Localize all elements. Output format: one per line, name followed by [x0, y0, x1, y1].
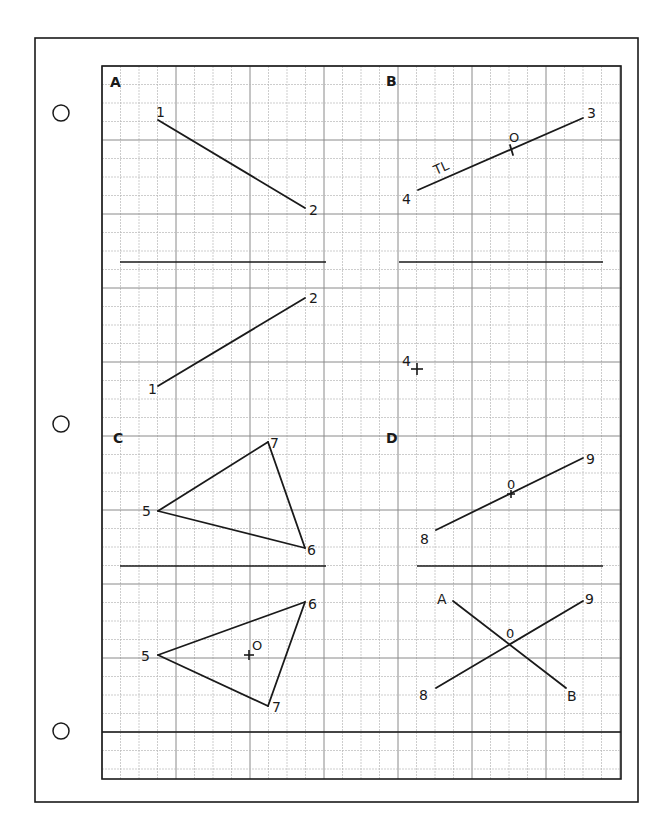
- binder-hole-icon: [53, 723, 69, 739]
- a-bottom-label-2: 2: [309, 290, 318, 306]
- d-bottom-label-9: 9: [585, 591, 594, 607]
- b-bottom-label-4: 4: [402, 353, 411, 369]
- panel-label-b: B: [386, 73, 397, 89]
- b-top-label-o: O: [509, 130, 519, 145]
- panel-label-c: C: [113, 430, 123, 446]
- panel-label-d: D: [386, 430, 398, 446]
- c-top-label-7: 7: [270, 435, 279, 451]
- c-bottom-label-5: 5: [141, 648, 150, 664]
- d-bottom-label-b: B: [567, 688, 577, 704]
- d-top-label-o: 0: [507, 477, 515, 492]
- c-bottom-label-o: O: [252, 638, 262, 653]
- a-top-label-2: 2: [309, 202, 318, 218]
- b-top-label-3: 3: [587, 105, 596, 121]
- c-bottom-label-7: 7: [272, 699, 281, 715]
- d-top-label-8: 8: [420, 531, 429, 547]
- a-top-label-1: 1: [156, 104, 165, 120]
- binder-hole-icon: [53, 105, 69, 121]
- c-top-label-6: 6: [307, 542, 316, 558]
- c-bottom-label-6: 6: [308, 596, 317, 612]
- worksheet: ABCD 12213OTL4475690865O7A908B: [0, 0, 661, 827]
- a-bottom-label-1: 1: [148, 381, 157, 397]
- binder-hole-icon: [53, 416, 69, 432]
- d-top-label-9: 9: [586, 451, 595, 467]
- d-bottom-label-8: 8: [419, 687, 428, 703]
- page-background: [0, 0, 661, 827]
- panel-label-a: A: [110, 74, 121, 90]
- d-bottom-label-a: A: [437, 591, 447, 607]
- c-top-label-5: 5: [142, 503, 151, 519]
- b-top-label-4: 4: [402, 191, 411, 207]
- d-bottom-label-o: 0: [506, 626, 514, 641]
